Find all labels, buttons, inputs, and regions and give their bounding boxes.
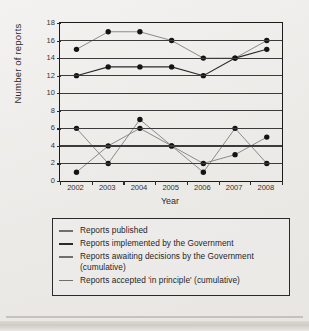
y-axis-tick-label: 2: [36, 158, 55, 167]
y-axis-tick-labels: 181614121086420: [36, 22, 55, 180]
y-axis-tick-label: 14: [36, 53, 55, 62]
y-axis-tick-label: 8: [36, 105, 55, 114]
gridline: [60, 110, 282, 111]
y-axis-tick-label: 0: [36, 176, 55, 185]
data-point: [264, 47, 269, 52]
x-axis-title: Year: [59, 196, 281, 206]
y-axis-tick-label: 6: [36, 123, 55, 132]
x-axis-tick-label: 2007: [217, 183, 251, 192]
data-point: [74, 47, 79, 52]
data-point: [106, 29, 111, 34]
y-axis-tick-label: 4: [36, 140, 55, 149]
y-tick-mark: [57, 93, 61, 94]
y-tick-mark: [57, 76, 61, 77]
y-axis-tick-label: 16: [36, 35, 55, 44]
line-chart: Number of reports 181614121086420 200220…: [0, 0, 309, 215]
y-tick-mark: [57, 111, 61, 112]
series-line: [76, 128, 266, 172]
series-line: [76, 49, 266, 75]
legend-label: Reports accepted 'in principle' (cumulat…: [80, 275, 240, 286]
gridline: [60, 93, 282, 94]
y-axis-tick-label: 18: [36, 18, 55, 27]
data-point: [74, 170, 79, 175]
x-axis-tick-label: 2002: [58, 183, 92, 192]
legend-line-icon: [59, 280, 73, 282]
y-axis-tick-label: 12: [36, 70, 55, 79]
legend-item: Reports awaiting decisions by the Govern…: [59, 251, 285, 272]
gridline: [60, 145, 282, 146]
x-axis-tick-label: 2005: [154, 183, 188, 192]
page-background: Number of reports 181614121086420 200220…: [0, 0, 309, 331]
page-rule: [6, 316, 303, 318]
y-tick-mark: [57, 128, 61, 129]
data-point: [201, 170, 206, 175]
data-point: [232, 152, 237, 157]
data-point: [106, 64, 111, 69]
data-point: [137, 117, 142, 122]
y-axis-tick-label: 10: [36, 88, 55, 97]
data-point: [169, 64, 174, 69]
plot-area: [59, 22, 283, 182]
legend-label: Reports implemented by the Government: [80, 238, 234, 249]
y-tick-mark: [57, 163, 61, 164]
y-tick-mark: [57, 58, 61, 59]
gridline: [60, 128, 282, 129]
data-point: [264, 134, 269, 139]
legend-line-icon: [59, 243, 73, 245]
series-line: [76, 32, 266, 58]
gridline: [60, 58, 282, 59]
legend-item: Reports published: [59, 225, 285, 236]
legend-item: Reports implemented by the Government: [59, 238, 285, 249]
y-tick-mark: [57, 146, 61, 147]
legend-label: Reports published: [80, 225, 148, 236]
legend-label: Reports awaiting decisions by the Govern…: [80, 251, 285, 272]
x-axis-tick-label: 2008: [249, 183, 283, 192]
chart-legend: Reports publishedReports implemented by …: [52, 218, 290, 296]
y-tick-mark: [57, 41, 61, 42]
data-point: [137, 29, 142, 34]
legend-line-icon: [59, 256, 73, 258]
x-axis-tick-label: 2006: [185, 183, 219, 192]
gridline: [60, 40, 282, 41]
y-axis-title: Number of reports: [12, 0, 23, 129]
gridline: [60, 163, 282, 164]
x-axis-tick-labels: 2002200320042005200620072008: [59, 183, 281, 196]
data-point: [137, 64, 142, 69]
x-axis-tick-label: 2004: [122, 183, 156, 192]
page-edge: [0, 321, 309, 331]
y-tick-mark: [57, 23, 61, 24]
gridline: [60, 75, 282, 76]
legend-item: Reports accepted 'in principle' (cumulat…: [59, 275, 285, 286]
series-layer: [60, 23, 282, 181]
legend-line-icon: [59, 230, 73, 232]
x-axis-tick-label: 2003: [90, 183, 124, 192]
